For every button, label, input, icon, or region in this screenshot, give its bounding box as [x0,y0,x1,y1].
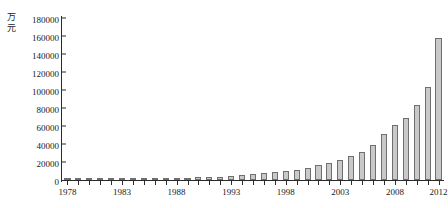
y-axis-tick-text: 180000 [32,16,62,25]
x-axis-tick-mark [122,181,123,185]
y-axis-tick-text: 100000 [32,88,62,97]
bar [283,171,289,180]
x-axis-tick-label: 2003 [331,187,349,197]
x-axis-tick-mark [264,181,265,185]
x-axis-tick-mark [362,181,363,185]
bar [359,152,365,180]
x-axis-tick-mark [253,181,254,185]
bar [294,170,300,180]
x-axis-tick-mark [177,181,178,185]
x-axis-tick-mark [417,181,418,185]
bar [370,145,376,180]
x-axis-tick-mark [67,181,68,185]
bar [217,177,223,180]
bar [261,173,267,180]
x-axis-tick-mark [373,181,374,185]
bar [305,168,311,180]
bar [119,178,125,180]
x-axis-tick-mark [242,181,243,185]
y-axis-tick-label: 40000 [0,135,62,153]
bar [414,105,420,180]
bar [86,178,92,180]
x-axis-tick-mark [133,181,134,185]
bar [108,178,114,180]
x-axis-tick-label: 1988 [168,187,186,197]
bar [152,178,158,180]
y-axis-tick-label: 180000 [0,9,62,27]
y-axis-tick-text: 0 [55,178,63,187]
x-axis-tick-mark [384,181,385,185]
x-axis-tick-mark [220,181,221,185]
x-axis-tick-label: 2008 [386,187,404,197]
y-axis-tick-text: 140000 [32,52,62,61]
x-axis-tick-mark [231,181,232,185]
bar [206,177,212,180]
x-axis-tick-mark [297,181,298,185]
bar [195,177,201,180]
x-axis-tick-mark [209,181,210,185]
bar [228,176,234,180]
bar [239,175,245,180]
bar [272,172,278,180]
y-axis-tick-text: 20000 [37,160,63,169]
y-axis-tick-label: 20000 [0,153,62,171]
x-axis-tick-mark [351,181,352,185]
x-axis-tick-mark [188,181,189,185]
bar [392,125,398,180]
x-axis-tick-mark [329,181,330,185]
x-axis-tick-label: 1993 [222,187,240,197]
x-axis-tick-mark [286,181,287,185]
bar [315,165,321,180]
y-axis-tick-label: 60000 [0,117,62,135]
y-axis-tick-label: 80000 [0,99,62,117]
y-axis-tick-label: 0 [0,171,62,189]
bar [250,174,256,180]
x-axis-tick-label: 1983 [113,187,131,197]
bar [435,38,441,180]
y-axis-tick-text: 40000 [37,142,63,151]
y-axis-tick-text: 80000 [37,106,63,115]
y-axis-tick-text: 120000 [32,70,62,79]
y-axis-tick-label: 160000 [0,27,62,45]
y-axis-tick-text: 60000 [37,124,63,133]
bar [130,178,136,180]
x-axis-tick-label: 1978 [58,187,76,197]
x-axis-tick-mark [340,181,341,185]
y-axis-tick-label: 120000 [0,63,62,81]
y-axis-tick-text: 160000 [32,34,62,43]
bar [141,178,147,180]
bar [403,118,409,180]
x-axis-tick-mark [100,181,101,185]
bar [184,178,190,180]
x-axis-tick-mark [406,181,407,185]
x-axis-tick-mark [275,181,276,185]
bar [348,156,354,180]
x-axis-tick-mark [439,181,440,185]
x-axis-tick-mark [395,181,396,185]
x-axis-tick-mark [78,181,79,185]
x-axis-tick-mark [318,181,319,185]
bar [75,178,81,180]
x-axis-tick-mark [166,181,167,185]
x-axis-tick-mark [428,181,429,185]
x-axis-tick-label: 1998 [277,187,295,197]
bar [425,87,431,180]
x-axis-tick-mark [111,181,112,185]
x-axis-tick-label: 2012 [430,187,448,197]
bars-layer [62,18,444,180]
bar [64,178,70,180]
x-axis-tick-mark [155,181,156,185]
y-axis-tick-label: 140000 [0,45,62,63]
y-axis-tick-label: 100000 [0,81,62,99]
x-axis-tick-mark [308,181,309,185]
bar [174,178,180,180]
bar [97,178,103,180]
bar [163,178,169,180]
x-axis-tick-mark [89,181,90,185]
x-axis-tick-mark [144,181,145,185]
bar [381,134,387,180]
x-axis-tick-mark [198,181,199,185]
bar [326,163,332,180]
bar-chart: 万 元 020000400006000080000100000120000140… [0,0,448,208]
bar [337,160,343,180]
